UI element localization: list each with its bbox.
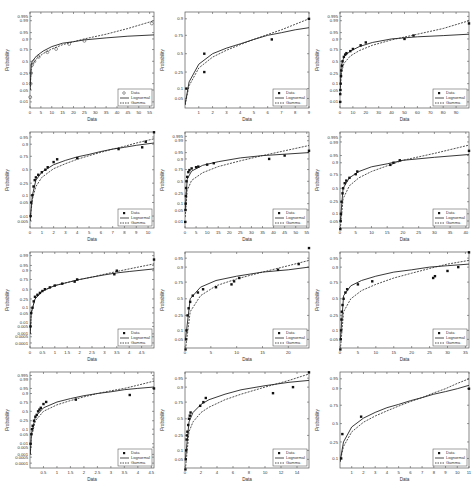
y-tick-label: 0.25 bbox=[175, 433, 184, 438]
y-tick-label: 0.5 bbox=[22, 287, 28, 292]
y-tick-label: 0.5 bbox=[177, 51, 183, 56]
x-axis-label: Data bbox=[87, 117, 97, 122]
legend-data-marker bbox=[123, 212, 125, 214]
x-tick-label: 15 bbox=[216, 230, 221, 235]
data-point bbox=[202, 288, 204, 290]
legend-label-gamma: Gamma bbox=[286, 460, 301, 465]
y-axis-label: Probability bbox=[160, 49, 165, 71]
x-tick-label: 2 bbox=[362, 470, 365, 475]
data-point bbox=[355, 173, 357, 175]
x-tick-label: 0.5 bbox=[41, 470, 47, 475]
x-tick-label: 5 bbox=[195, 230, 198, 235]
x-tick-label: 5 bbox=[210, 350, 213, 355]
x-axis-label: Data bbox=[242, 117, 252, 122]
legend-label-gamma: Gamma bbox=[446, 100, 461, 105]
y-tick-label: 0.995 bbox=[328, 135, 339, 140]
y-tick-label: 0.005 bbox=[18, 219, 29, 224]
y-tick-label: 0.95 bbox=[330, 153, 339, 158]
y-tick-label: 0.5 bbox=[22, 409, 28, 414]
data-point bbox=[31, 194, 33, 196]
legend: DataLognormalGamma bbox=[433, 329, 467, 346]
x-tick-label: 0 bbox=[29, 230, 32, 235]
legend: DataLognormalGamma bbox=[433, 209, 467, 226]
y-tick-label: 0.99 bbox=[330, 140, 339, 145]
x-tick-label: 7 bbox=[111, 230, 114, 235]
x-axis-label: Data bbox=[400, 237, 410, 242]
x-tick-label: 0.5 bbox=[39, 350, 45, 355]
x-tick-label: 30 bbox=[376, 110, 381, 115]
x-tick-label: 1 bbox=[351, 470, 354, 475]
y-tick-label: 0.75 bbox=[175, 400, 184, 405]
probability-plot-3: 0.010.050.10.250.50.750.90.950.990.99501… bbox=[310, 4, 473, 124]
data-point bbox=[371, 280, 373, 282]
x-tick-label: 0 bbox=[339, 110, 342, 115]
x-tick-label: 0 bbox=[339, 230, 342, 235]
data-point bbox=[283, 154, 285, 156]
data-point bbox=[206, 163, 208, 165]
x-tick-label: 90 bbox=[454, 110, 459, 115]
legend-data-marker bbox=[278, 92, 280, 94]
x-tick-label: 1 bbox=[198, 110, 201, 115]
y-tick-label: 0.01 bbox=[175, 219, 184, 224]
x-tick-label: 6 bbox=[409, 470, 412, 475]
y-tick-label: 0.9 bbox=[332, 265, 338, 270]
y-tick-label: 0.1 bbox=[177, 328, 183, 333]
y-axis-label: Probability bbox=[315, 289, 320, 311]
data-point bbox=[233, 280, 235, 282]
y-tick-label: 0.1 bbox=[177, 448, 183, 453]
data-point bbox=[339, 101, 341, 103]
x-tick-label: 9 bbox=[135, 230, 138, 235]
y-tick-label: 0.95 bbox=[20, 30, 29, 35]
y-tick-label: 0.9 bbox=[22, 142, 28, 147]
data-point bbox=[344, 291, 346, 293]
y-tick-label: 0.25 bbox=[20, 181, 29, 186]
data-point bbox=[399, 159, 401, 161]
data-point bbox=[187, 424, 189, 426]
y-tick-label: 0.99 bbox=[20, 18, 29, 23]
x-tick-label: 10 bbox=[373, 350, 378, 355]
x-tick-label: 45 bbox=[282, 230, 287, 235]
y-tick-label: 0.5 bbox=[332, 296, 338, 301]
data-point bbox=[54, 284, 56, 286]
probability-plot-4: 0.0050.010.050.10.250.50.750.90.95012345… bbox=[0, 124, 158, 244]
y-tick-label: 0.01 bbox=[20, 441, 29, 446]
data-point bbox=[41, 290, 43, 292]
data-point bbox=[344, 182, 346, 184]
data-point bbox=[341, 60, 343, 62]
y-tick-label: 0.1 bbox=[332, 211, 338, 216]
data-point bbox=[184, 468, 186, 470]
legend-label-gamma: Gamma bbox=[446, 340, 461, 345]
x-tick-label: 25 bbox=[82, 110, 87, 115]
data-point bbox=[203, 52, 205, 54]
x-tick-label: 10 bbox=[455, 470, 460, 475]
data-point bbox=[31, 428, 33, 430]
data-point bbox=[32, 185, 34, 187]
y-tick-label: 0.01 bbox=[20, 214, 29, 219]
x-tick-label: 10 bbox=[49, 110, 54, 115]
legend-label-gamma: Gamma bbox=[131, 340, 146, 345]
data-point bbox=[31, 307, 33, 309]
data-point bbox=[277, 269, 279, 271]
y-tick-label: 0.1 bbox=[22, 305, 28, 310]
y-tick-label: 0.75 bbox=[20, 154, 29, 159]
x-tick-label: 4.5 bbox=[139, 350, 145, 355]
x-tick-label: 8 bbox=[123, 230, 126, 235]
x-tick-label: 5 bbox=[355, 230, 358, 235]
y-tick-label: 0.95 bbox=[175, 376, 184, 381]
data-point bbox=[403, 38, 405, 40]
x-tick-label: 0 bbox=[29, 110, 32, 115]
x-tick-label: 15 bbox=[391, 350, 396, 355]
data-point bbox=[184, 221, 186, 223]
y-tick-label: 0.05 bbox=[20, 200, 29, 205]
y-tick-label: 0.25 bbox=[330, 313, 339, 318]
data-point bbox=[341, 304, 343, 306]
y-tick-label: 0.1 bbox=[22, 81, 28, 86]
data-point bbox=[345, 179, 347, 181]
y-tick-label: 0.5 bbox=[332, 421, 338, 426]
data-point bbox=[342, 187, 344, 189]
y-tick-label: 0.5 bbox=[332, 186, 338, 191]
y-tick-label: 0.05 bbox=[20, 432, 29, 437]
data-point bbox=[197, 165, 199, 167]
y-tick-label: 0.25 bbox=[175, 191, 184, 196]
x-tick-label: 10 bbox=[146, 230, 151, 235]
